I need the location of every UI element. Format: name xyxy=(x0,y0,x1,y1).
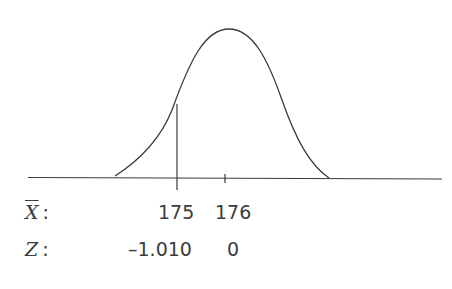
xbar-value-175: 175 xyxy=(158,203,194,222)
horizontal-axis xyxy=(28,178,442,180)
xbar-variable: X xyxy=(25,201,39,223)
z-variable: Z xyxy=(25,238,38,260)
xbar-value-176: 176 xyxy=(215,203,251,222)
z-label: Z: xyxy=(25,240,49,259)
xbar-label: X: xyxy=(25,203,49,222)
normal-curve-diagram xyxy=(0,0,452,289)
z-value-0: 0 xyxy=(227,240,239,259)
z-colon: : xyxy=(42,238,48,260)
z-value-neg1010: –1.010 xyxy=(128,240,192,259)
bell-curve xyxy=(115,29,329,178)
xbar-colon: : xyxy=(43,201,49,223)
